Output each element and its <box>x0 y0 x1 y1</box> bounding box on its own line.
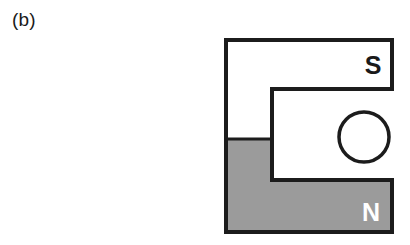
south-pole-label: S <box>365 51 382 79</box>
magnet-diagram: S N <box>0 0 410 245</box>
north-pole-label: N <box>362 198 380 226</box>
wire-cross-section-circle <box>339 112 389 162</box>
figure-container: (b) S N <box>0 0 410 245</box>
